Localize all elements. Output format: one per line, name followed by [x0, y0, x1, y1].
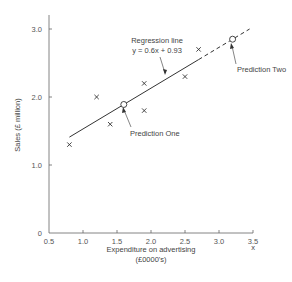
- regression-scatter-chart: 0.51.01.52.02.53.03.5 01.02.03.0 Expendi…: [0, 0, 292, 282]
- observation-x-marker: [94, 95, 98, 99]
- observation-x-marker: [142, 81, 146, 85]
- prediction-two-arrow-line: [232, 46, 236, 64]
- prediction-two-arrow-head: [230, 43, 234, 49]
- x-axis-title: Expenditure on advertising: [107, 245, 196, 254]
- observation-x-marker: [108, 122, 112, 126]
- x-tick-label: 0.5: [44, 237, 54, 246]
- prediction-one-marker: [121, 101, 127, 107]
- observation-x-marker: [67, 142, 71, 146]
- regression-line-label: Regression line: [131, 36, 183, 45]
- regression-annotation: Regression line y = 0.6x + 0.93: [131, 36, 183, 75]
- y-axis-title: Sales (£ million): [13, 98, 22, 152]
- prediction-two-marker: [230, 36, 236, 42]
- regression-arrow-head: [163, 69, 167, 75]
- prediction-one-arrow-line: [124, 110, 131, 127]
- y-tick-label: 1.0: [32, 161, 42, 170]
- x-axis-ticks: 0.51.01.52.02.53.03.5: [44, 230, 258, 246]
- y-tick-label: 0: [38, 229, 42, 238]
- observation-x-marker: [183, 74, 187, 78]
- regression-equation: y = 0.6x + 0.93: [132, 46, 182, 55]
- prediction-one-annotation: Prediction One: [122, 107, 180, 138]
- y-tick-label: 2.0: [32, 93, 42, 102]
- prediction-two-annotation: Prediction Two: [230, 43, 286, 74]
- x-tick-label: 3.0: [214, 237, 224, 246]
- observation-x-marker: [142, 108, 146, 112]
- observation-x-marker: [196, 47, 200, 51]
- prediction-one-label: Prediction One: [130, 129, 180, 138]
- regression-line-solid: [69, 60, 198, 138]
- x-axis-title-units: (£0000's): [135, 255, 167, 264]
- x-axis-symbol: x: [251, 243, 255, 252]
- x-tick-label: 1.0: [78, 237, 88, 246]
- prediction-two-label: Prediction Two: [237, 65, 286, 74]
- regression-line-extrapolated: [199, 29, 250, 60]
- y-tick-label: 3.0: [32, 25, 42, 34]
